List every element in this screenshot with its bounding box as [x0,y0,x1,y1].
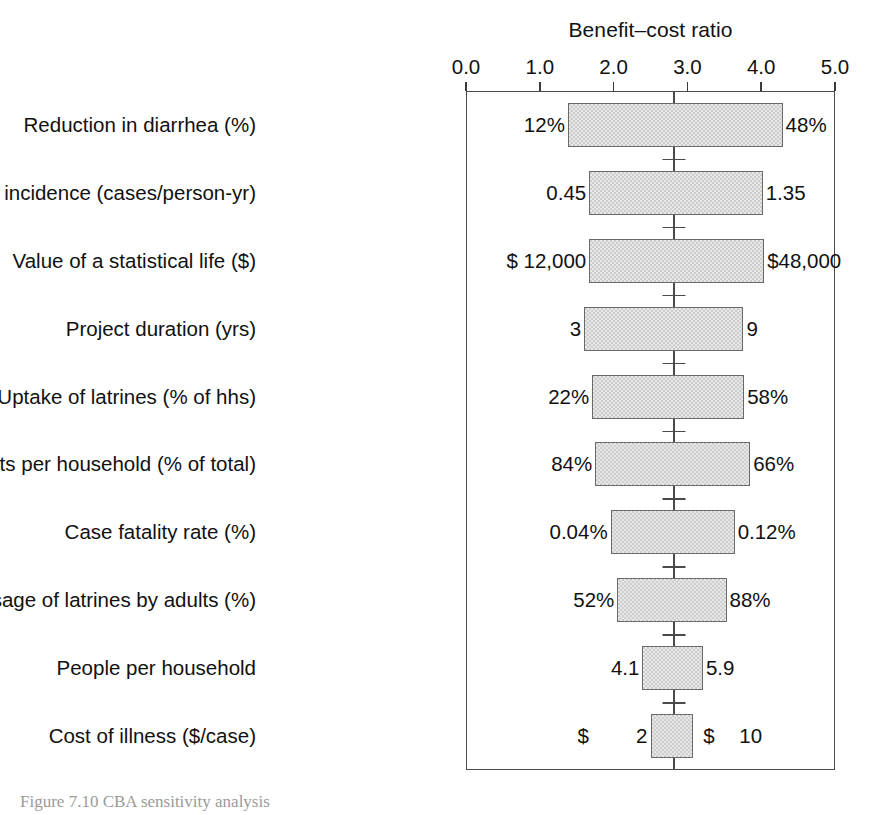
tornado-row: People per household4.15.9 [0,634,880,702]
axis-title: Benefit–cost ratio [466,18,835,42]
center-line-stub [663,295,686,297]
row-category-label: Reduction in diarrhea (%) [24,113,256,137]
bar-low-value-label: 2 [636,724,647,748]
row-category-label: Usage of latrines by adults (%) [0,588,256,612]
bar-low-value-label: 0.04% [550,520,608,544]
bar-high-value-label: 0.12% [738,520,796,544]
tornado-row: Uptake of latrines (% of hhs)22%58% [0,363,880,431]
center-line-stub [663,227,686,229]
x-tick-mark [613,82,615,91]
bar-low-value-label: 22% [548,385,589,409]
bar-high-value-label: 9 [746,317,757,341]
bar-high-value-label: 58% [747,385,788,409]
bar-high-value-label: 10 [739,724,762,748]
x-tick-label: 5.0 [821,55,850,79]
tornado-row: Project duration (yrs)39 [0,295,880,363]
bar-low-value-label: 52% [573,588,614,612]
tornado-row: Value of a statistical life ($)$ 12,000$… [0,227,880,295]
x-tick-label: 0.0 [452,55,481,79]
row-category-label: Cost of illness ($/case) [49,724,256,748]
x-axis-tick-labels: 0.01.02.03.04.05.0 [0,55,880,81]
tornado-bar [592,375,744,419]
tornado-row: Diarrheal incidence (cases/person-yr)0.4… [0,159,880,227]
tornado-bar [617,578,726,622]
bar-low-value-label: 4.1 [611,656,640,680]
row-category-label: Uptake of latrines (% of hhs) [0,385,256,409]
x-tick-label: 3.0 [673,55,702,79]
row-category-label: Case fatality rate (%) [65,520,256,544]
row-category-label: Program costs per household (% of total) [0,452,256,476]
bar-high-value-label: 1.35 [766,181,806,205]
bar-low-value-label: 0.45 [546,181,586,205]
bar-high-value-label: $48,000 [767,249,841,273]
bar-high-value-label: 88% [730,588,771,612]
center-line-stub [663,498,686,500]
x-tick-label: 1.0 [526,55,555,79]
tornado-bar [589,171,762,215]
bar-high-value-label: 5.9 [706,656,735,680]
tornado-bar [595,442,750,486]
tornado-chart-figure: Benefit–cost ratio 0.01.02.03.04.05.0 Re… [0,0,880,815]
bar-high-value-label: 48% [786,113,827,137]
center-line-stub [663,566,686,568]
tornado-bar [611,510,735,554]
center-line-stub [663,431,686,433]
x-tick-mark [539,82,541,91]
row-category-label: People per household [57,656,256,680]
tornado-row: Case fatality rate (%)0.04%0.12% [0,498,880,566]
center-line-stub [663,634,686,636]
x-tick-mark [687,82,689,91]
bar-low-value-label: 12% [524,113,565,137]
center-line-stub [663,702,686,704]
tornado-bar [589,239,764,283]
tornado-row: Program costs per household (% of total)… [0,431,880,499]
bar-low-value-label: 3 [570,317,581,341]
x-tick-mark [465,82,467,91]
bar-high-value-label: 66% [753,452,794,476]
tornado-row: Reduction in diarrhea (%)12%48% [0,91,880,159]
figure-caption: Figure 7.10 CBA sensitivity analysis [20,792,270,812]
x-tick-mark [834,82,836,91]
x-tick-label: 4.0 [747,55,776,79]
tornado-bar [642,646,703,690]
bar-low-value-label: $ 12,000 [506,249,586,273]
tornado-row: Usage of latrines by adults (%)52%88% [0,566,880,634]
tornado-bar [568,103,783,147]
row-category-label: Project duration (yrs) [66,317,256,341]
bar-low-currency-prefix: $ [578,724,589,748]
bar-high-currency-prefix: $ [703,724,714,748]
tornado-bar [651,714,694,758]
tornado-bar [584,307,743,351]
tornado-row: Cost of illness ($/case)210$$ [0,702,880,770]
bar-low-value-label: 84% [551,452,592,476]
row-category-label: Diarrheal incidence (cases/person-yr) [0,181,256,205]
x-tick-label: 2.0 [599,55,628,79]
center-line-stub [663,363,686,365]
row-category-label: Value of a statistical life ($) [13,249,256,273]
center-line-stub [663,159,686,161]
x-tick-mark [760,82,762,91]
